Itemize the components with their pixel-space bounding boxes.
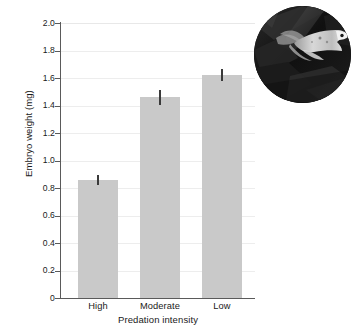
y-axis-tick-mark	[55, 243, 61, 244]
y-axis-tick-mark	[55, 188, 61, 189]
y-axis-tick-labels: 00.20.40.60.81.01.21.41.61.82.0	[5, 0, 55, 333]
error-bar-moderate	[159, 90, 160, 105]
y-axis-tick-label: 1.2	[11, 128, 55, 138]
bar-moderate	[140, 97, 180, 298]
y-axis-tick-mark	[55, 161, 61, 162]
figure-panel: Embryo weight (mg) 00.20.40.60.81.01.21.…	[0, 0, 362, 333]
y-axis-tick-mark	[55, 23, 61, 24]
x-axis-line	[61, 298, 255, 299]
y-axis-tick-mark	[55, 298, 61, 299]
fish-photo-inset	[254, 6, 351, 103]
gridline	[61, 23, 255, 24]
y-axis-tick-mark	[55, 78, 61, 79]
y-axis-tick-mark	[55, 106, 61, 107]
y-axis-tick-mark	[55, 133, 61, 134]
y-axis-tick-label: 1.4	[11, 100, 55, 110]
plot-area	[61, 23, 255, 298]
y-axis-tick-mark	[55, 216, 61, 217]
y-axis-tick-label: 0.8	[11, 183, 55, 193]
y-axis-tick-label: 0.2	[11, 265, 55, 275]
y-axis-tick-label: 0	[11, 293, 55, 303]
bar-high	[78, 180, 118, 298]
x-axis-title: Predation intensity	[61, 314, 255, 325]
error-bar-high	[97, 175, 98, 185]
y-axis-tick-label: 1.8	[11, 45, 55, 55]
error-bar-low	[221, 69, 222, 81]
y-axis-tick-mark	[55, 271, 61, 272]
y-axis-tick-label: 1.6	[11, 73, 55, 83]
gridline	[61, 51, 255, 52]
y-axis-tick-label: 1.0	[11, 155, 55, 165]
y-axis-tick-label: 0.4	[11, 238, 55, 248]
y-axis-tick-mark	[55, 51, 61, 52]
y-axis-tick-label: 2.0	[11, 18, 55, 28]
x-axis-tick-label-low: Low	[186, 301, 258, 311]
y-axis-tick-label: 0.6	[11, 210, 55, 220]
bar-low	[202, 75, 242, 298]
